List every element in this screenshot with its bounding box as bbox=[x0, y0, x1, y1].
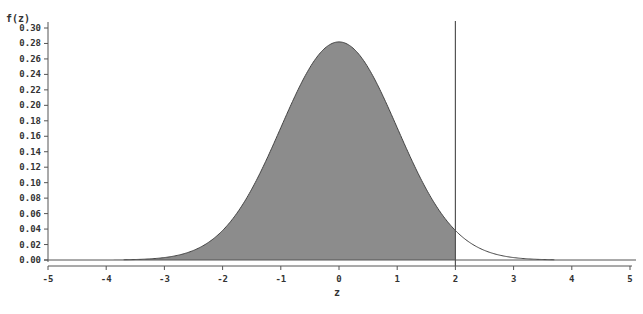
x-tick-label: -4 bbox=[101, 274, 112, 284]
y-tick-label: 0.06 bbox=[19, 209, 41, 219]
x-tick-label: 4 bbox=[569, 274, 575, 284]
y-tick-label: 0.26 bbox=[19, 54, 41, 64]
x-tick-label: 1 bbox=[394, 274, 399, 284]
y-axis-title: f(z) bbox=[6, 13, 30, 24]
x-axis-ticks: -5-4-3-2-1012345 bbox=[43, 266, 633, 284]
y-tick-label: 0.18 bbox=[19, 116, 41, 126]
x-tick-label: 5 bbox=[627, 274, 632, 284]
shaded-region bbox=[48, 42, 455, 260]
y-tick-label: 0.00 bbox=[19, 255, 41, 265]
y-axis-ticks: 0.000.020.040.060.080.100.120.140.160.18… bbox=[19, 23, 48, 265]
y-tick-label: 0.30 bbox=[19, 23, 41, 33]
x-axis-title: z bbox=[334, 287, 340, 298]
y-tick-label: 0.08 bbox=[19, 193, 41, 203]
y-tick-label: 0.14 bbox=[19, 147, 41, 157]
y-tick-label: 0.02 bbox=[19, 240, 41, 250]
y-tick-label: 0.10 bbox=[19, 178, 41, 188]
x-tick-label: -2 bbox=[217, 274, 228, 284]
y-tick-label: 0.20 bbox=[19, 100, 41, 110]
density-chart: 0.000.020.040.060.080.100.120.140.160.18… bbox=[0, 0, 643, 314]
x-tick-label: 0 bbox=[336, 274, 341, 284]
x-tick-label: 3 bbox=[511, 274, 516, 284]
shaded-area bbox=[48, 42, 455, 260]
y-tick-label: 0.24 bbox=[19, 69, 41, 79]
x-tick-label: 2 bbox=[453, 274, 458, 284]
x-tick-label: -5 bbox=[43, 274, 54, 284]
x-tick-label: -1 bbox=[275, 274, 286, 284]
y-tick-label: 0.12 bbox=[19, 162, 41, 172]
x-tick-label: -3 bbox=[159, 274, 170, 284]
y-tick-label: 0.22 bbox=[19, 85, 41, 95]
y-tick-label: 0.28 bbox=[19, 38, 41, 48]
y-tick-label: 0.16 bbox=[19, 131, 41, 141]
y-tick-label: 0.04 bbox=[19, 224, 41, 234]
